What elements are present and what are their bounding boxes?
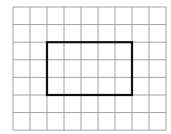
grid-diagram (0, 0, 171, 134)
highlighted-rectangle (47, 42, 132, 95)
grid-lines (13, 7, 166, 130)
